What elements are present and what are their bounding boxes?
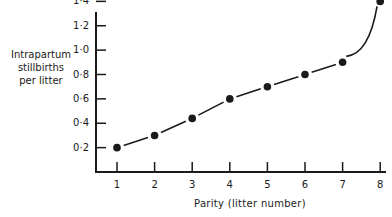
data-point-marker <box>226 95 234 103</box>
line-segment <box>124 138 148 146</box>
data-point-marker <box>151 132 159 140</box>
data-point-marker <box>339 59 347 67</box>
data-point-marker <box>376 0 384 5</box>
line-segment <box>198 102 223 115</box>
line-segment <box>161 121 186 132</box>
data-point-marker <box>264 83 272 91</box>
line-segment <box>312 64 336 72</box>
line-plot <box>0 0 392 217</box>
data-point-marker <box>113 144 121 152</box>
line-segment <box>236 89 260 97</box>
line-segment <box>346 6 377 56</box>
data-point-marker <box>188 115 196 123</box>
axes <box>95 0 386 172</box>
line-segment <box>274 77 298 85</box>
data-series <box>113 0 384 151</box>
data-point-marker <box>301 71 309 79</box>
